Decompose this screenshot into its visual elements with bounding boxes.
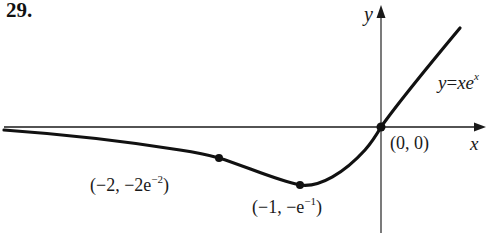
- point-minus1-label: (−1, −e−1): [252, 198, 322, 216]
- curve-xex: [4, 28, 460, 185]
- function-plot: [0, 0, 498, 233]
- point-minus1-minimum: [296, 181, 304, 189]
- point-minus2: [215, 154, 223, 162]
- x-axis-label: x: [470, 134, 478, 153]
- y-axis-label: y: [364, 4, 373, 24]
- point-origin: [377, 123, 386, 132]
- origin-label: (0, 0): [390, 134, 429, 152]
- point-minus2-label: (−2, −2e−2): [90, 176, 169, 194]
- y-axis-arrow-icon: [377, 5, 386, 18]
- function-label: y=xex: [438, 73, 479, 92]
- x-axis-arrow-icon: [474, 123, 486, 132]
